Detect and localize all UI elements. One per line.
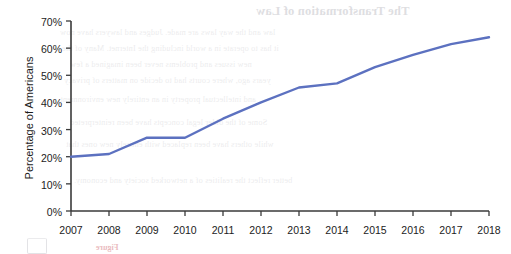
line-chart: Percentage of Americans 70% 60% 50% 40% … — [0, 0, 511, 254]
chart-canvas — [0, 0, 511, 254]
document-page: The Transformation of Law law and the wa… — [0, 0, 511, 254]
data-series-line — [71, 37, 489, 156]
